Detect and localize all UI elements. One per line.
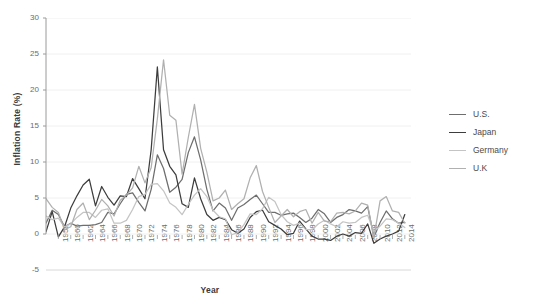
- chart-container: Inflation Rate (%) Year -5051015202530 1…: [0, 0, 540, 304]
- y-tick-label: 15: [0, 122, 39, 130]
- legend-item-us[interactable]: U.S.: [449, 110, 490, 119]
- legend-item-uk[interactable]: U.K: [449, 164, 487, 173]
- y-tick-label: 5: [0, 194, 39, 202]
- legend-item-japan[interactable]: Japan: [449, 128, 496, 137]
- y-tick-label: 25: [0, 50, 39, 58]
- legend-label: Japan: [473, 128, 496, 137]
- y-tick-label: -5: [0, 266, 39, 274]
- y-tick-label: 30: [0, 14, 39, 22]
- legend-swatch-icon: [449, 150, 466, 151]
- series-lines: [46, 18, 411, 270]
- y-tick-label: 10: [0, 158, 39, 166]
- legend-label: U.K: [473, 164, 487, 173]
- series-line-uk: [46, 60, 405, 238]
- legend-swatch-icon: [449, 114, 466, 115]
- legend-label: U.S.: [473, 110, 490, 119]
- legend-item-germany[interactable]: Germany: [449, 146, 508, 155]
- legend-swatch-icon: [449, 132, 466, 133]
- plot-area: [46, 18, 411, 270]
- legend-swatch-icon: [449, 168, 466, 169]
- x-axis-title: Year: [150, 285, 270, 295]
- series-line-us: [46, 137, 405, 237]
- y-tick-label: 0: [0, 230, 39, 238]
- legend-label: Germany: [473, 146, 508, 155]
- y-tick-label: 20: [0, 86, 39, 94]
- series-line-japan: [46, 67, 405, 243]
